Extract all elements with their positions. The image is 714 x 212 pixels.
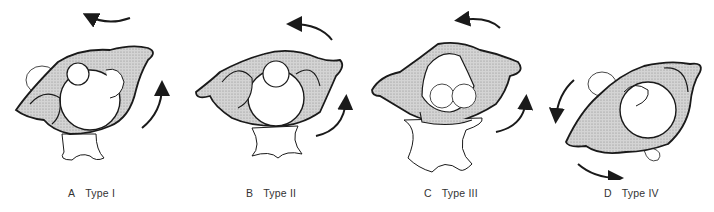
caption-b: BType II (246, 187, 296, 199)
caption-d: DType IV (604, 187, 659, 199)
panel-label: Type II (263, 187, 296, 199)
panel-d-type-4: DType IV (540, 0, 714, 212)
panel-label: Type IV (622, 187, 659, 199)
vertebra-drawing-c (360, 0, 540, 180)
rotation-arrow-icon (556, 80, 574, 118)
caption-c: CType III (424, 187, 478, 199)
rotation-arrow-icon (142, 86, 162, 128)
panel-letter: C (424, 187, 432, 199)
panel-label: Type III (442, 187, 478, 199)
panel-letter: A (68, 187, 75, 199)
panel-b-type-2: BType II (180, 0, 360, 212)
rotation-arrow-icon (292, 24, 332, 40)
panel-a-type-1: AType I (0, 0, 180, 212)
vertebra-drawing-d (540, 0, 714, 180)
vertebra-drawing-a (0, 0, 180, 180)
panel-letter: B (246, 187, 253, 199)
caption-a: AType I (68, 187, 115, 199)
rotation-arrow-icon (88, 16, 130, 22)
rotation-arrow-icon (496, 100, 526, 132)
rotation-arrow-icon (578, 164, 618, 178)
vertebra-drawing-b (180, 0, 360, 180)
rotation-arrow-icon (460, 19, 500, 28)
panel-letter: D (604, 187, 612, 199)
panel-c-type-3: CType III (360, 0, 540, 212)
panel-label: Type I (85, 187, 115, 199)
